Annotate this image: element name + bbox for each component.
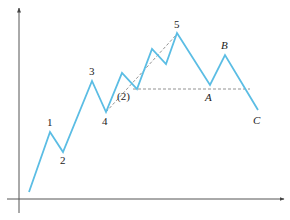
label-wave-5: 5 — [174, 18, 180, 30]
label-wave-3: 3 — [89, 65, 95, 77]
label-wave-c: C — [253, 114, 261, 126]
label-wave-a: A — [204, 91, 212, 103]
label-wave-1: 1 — [47, 116, 53, 128]
label-wave-4: 4 — [102, 115, 108, 127]
label-wave-b: B — [221, 39, 228, 51]
elliott-wave-diagram: 1 2 3 4 5 (2) A B C — [0, 0, 290, 220]
label-subwave-2: (2) — [117, 90, 130, 103]
label-wave-2: 2 — [60, 154, 66, 166]
wave-line — [29, 33, 258, 192]
